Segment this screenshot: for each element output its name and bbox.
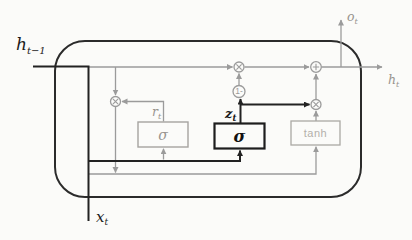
add-node	[311, 62, 322, 73]
reset-gate-sub: t	[158, 112, 162, 121]
hidden-next-base: h	[388, 72, 396, 87]
update-sigma-input-line	[89, 151, 241, 162]
update-gate-label: zt	[224, 106, 236, 123]
gru-cell-diagram: 1- σ σ tanh ht−1 xt ot ht rt	[0, 0, 412, 240]
input-x-label: xt	[96, 208, 108, 227]
input-x-sub: t	[104, 217, 108, 227]
elementwise-multiply-node-update	[311, 100, 321, 110]
update-gate-sub: t	[232, 113, 236, 123]
reset-sigma-label: σ	[158, 127, 168, 143]
hidden-next-label: ht	[388, 72, 400, 89]
output-o-label: ot	[347, 9, 359, 26]
output-o-sub: t	[355, 17, 359, 26]
one-minus-label: 1-	[235, 86, 243, 96]
reset-gate-label: rt	[152, 104, 162, 121]
tanh-box: tanh	[291, 121, 340, 145]
one-minus-node: 1-	[233, 86, 245, 98]
reset-sigma-box: σ	[138, 122, 188, 147]
tanh-label: tanh	[304, 127, 327, 139]
update-sigma-label: σ	[234, 127, 246, 146]
gate-boxes: σ σ tanh	[138, 121, 340, 149]
hidden-next-sub: t	[396, 80, 400, 89]
hidden-prev-and-input-line	[33, 67, 89, 222]
hidden-prev-base: h	[16, 34, 27, 54]
elementwise-multiply-node-top	[234, 62, 244, 72]
update-sigma-box: σ	[215, 124, 265, 149]
hidden-prev-sub: t−1	[27, 45, 46, 56]
elementwise-multiply-node-reset	[111, 97, 121, 107]
hidden-prev-label: ht−1	[16, 34, 46, 56]
output-o-base: o	[347, 9, 355, 24]
gray-signal-lines	[89, 20, 383, 174]
operator-nodes: 1-	[111, 62, 322, 110]
gru-cell-canvas: 1- σ σ tanh ht−1 xt ot ht rt	[0, 0, 412, 240]
